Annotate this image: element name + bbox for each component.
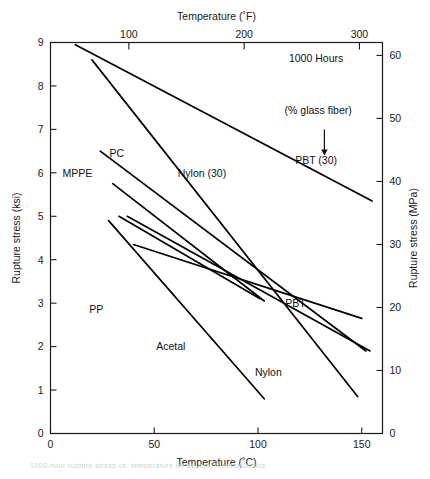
ytick-label-left: 8 bbox=[38, 80, 44, 92]
ytick-label-left: 4 bbox=[38, 254, 44, 266]
series-label-mppe: MPPE bbox=[63, 167, 93, 179]
glass-fiber-note: (% glass fiber) bbox=[285, 104, 352, 116]
ytick-label-left: 1 bbox=[38, 384, 44, 396]
ytick-label-left: 0 bbox=[38, 427, 44, 439]
ytick-label-right: 20 bbox=[390, 301, 402, 313]
ytick-label-left: 3 bbox=[38, 297, 44, 309]
series-line-pbt bbox=[134, 245, 362, 319]
figure-caption: 1000-hour rupture stress vs. temperature… bbox=[30, 462, 410, 469]
xtick-label-bottom: 50 bbox=[148, 438, 160, 450]
ytick-label-right: 30 bbox=[390, 238, 402, 250]
xtick-label-bottom: 0 bbox=[48, 438, 54, 450]
series-label-pbt-30: PBT (30) bbox=[295, 154, 337, 166]
xtick-label-bottom: 150 bbox=[353, 438, 371, 450]
ytick-label-right: 50 bbox=[390, 112, 402, 124]
series-line-pc bbox=[100, 151, 366, 351]
series-label-nylon: Nylon bbox=[255, 366, 282, 378]
xtick-label-top: 200 bbox=[235, 28, 253, 40]
series-label-nylon-30: Nylon (30) bbox=[178, 167, 226, 179]
ytick-label-left: 5 bbox=[38, 210, 44, 222]
ytick-label-right: 60 bbox=[390, 49, 402, 61]
ytick-label-left: 2 bbox=[38, 340, 44, 352]
ytick-label-right: 40 bbox=[390, 175, 402, 187]
series-line-mppe bbox=[113, 184, 264, 301]
xtick-label-top: 100 bbox=[120, 28, 138, 40]
series-label-pbt: PBT bbox=[285, 297, 306, 309]
rupture-stress-chart: 0123456789010203040506005010015010020030… bbox=[0, 0, 430, 479]
xtick-label-top: 300 bbox=[351, 28, 369, 40]
axis-title-right: Rupture stress (MPa) bbox=[407, 188, 419, 288]
axis-title-top: Temperature (˚F) bbox=[177, 10, 256, 22]
axis-title-left: Rupture stress (ksi) bbox=[10, 192, 22, 283]
ytick-label-right: 10 bbox=[390, 364, 402, 376]
ytick-label-right: 0 bbox=[390, 427, 396, 439]
ytick-label-left: 6 bbox=[38, 167, 44, 179]
figure-container: 0123456789010203040506005010015010020030… bbox=[0, 0, 430, 479]
series-label-acetal: Acetal bbox=[156, 340, 185, 352]
hours-note: 1000 Hours bbox=[289, 52, 343, 64]
xtick-label-bottom: 100 bbox=[249, 438, 267, 450]
ytick-label-left: 7 bbox=[38, 123, 44, 135]
series-label-pc: PC bbox=[110, 147, 125, 159]
ytick-label-left: 9 bbox=[38, 36, 44, 48]
series-label-pp: PP bbox=[89, 303, 103, 315]
